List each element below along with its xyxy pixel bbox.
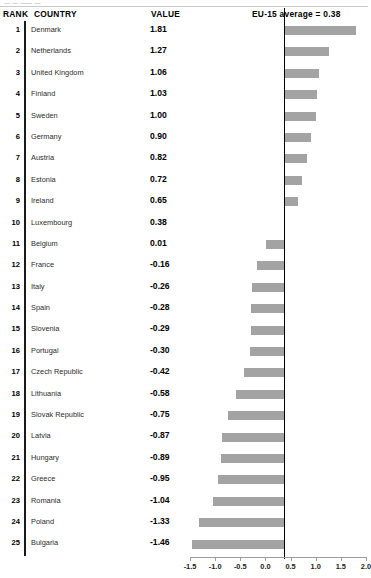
chart-bar <box>199 518 285 527</box>
rank-cell: 19 <box>0 410 20 419</box>
rank-cell: 23 <box>0 496 20 505</box>
value-cell: 1.03 <box>150 88 190 98</box>
rank-column-rule <box>24 299 26 321</box>
rank-cell: 10 <box>0 218 20 227</box>
rank-column-rule <box>24 128 26 150</box>
value-cell: 0.65 <box>150 195 190 205</box>
rank-cell: 17 <box>0 367 20 376</box>
value-cell: -1.04 <box>150 495 190 505</box>
rank-cell: 7 <box>0 153 20 162</box>
value-cell: 0.72 <box>150 174 190 184</box>
chart-bar <box>221 454 285 463</box>
value-cell: 1.00 <box>150 110 190 120</box>
rank-cell: 13 <box>0 282 20 291</box>
country-cell: Germany <box>31 132 61 141</box>
rank-cell: 8 <box>0 175 20 184</box>
rank-column-rule <box>24 363 26 385</box>
value-cell: -0.75 <box>150 409 190 419</box>
column-header-country: COUNTRY <box>34 9 77 21</box>
rank-column-rule <box>24 85 26 107</box>
country-cell: Latvia <box>31 431 51 440</box>
axis-tick-label: 1.0 <box>311 562 321 571</box>
chart-bar <box>266 240 285 249</box>
rank-column-rule <box>24 320 26 342</box>
country-cell: Netherlands <box>31 46 71 55</box>
axis-line <box>190 557 366 558</box>
chart-bar <box>250 347 284 356</box>
country-cell: United Kingdom <box>31 68 84 77</box>
rank-column-rule <box>24 214 26 236</box>
country-cell: Hungary <box>31 453 59 462</box>
value-cell: -0.89 <box>150 452 190 462</box>
country-cell: Portugal <box>31 346 59 355</box>
value-cell: -1.33 <box>150 516 190 526</box>
rank-cell: 16 <box>0 346 20 355</box>
value-cell: 0.38 <box>150 217 190 227</box>
chart-bar <box>257 261 284 270</box>
chart-bar <box>285 112 316 121</box>
rank-cell: 1 <box>0 25 20 34</box>
country-cell: Finland <box>31 89 55 98</box>
rank-cell: 18 <box>0 389 20 398</box>
chart-bar <box>213 497 284 506</box>
chart-bar <box>285 133 311 142</box>
country-cell: Austria <box>31 153 54 162</box>
rank-cell: 15 <box>0 324 20 333</box>
rank-column-rule <box>24 21 26 43</box>
column-header-value: VALUE <box>151 9 180 21</box>
chart-bar <box>285 47 330 56</box>
rank-column-rule <box>24 278 26 300</box>
rank-cell: 9 <box>0 196 20 205</box>
chart-bar <box>251 304 284 313</box>
value-cell: -0.26 <box>150 281 190 291</box>
value-cell: -0.95 <box>150 473 190 483</box>
eu-average-reference-line <box>284 8 286 559</box>
country-cell: Slovenia <box>31 324 59 333</box>
country-cell: Italy <box>31 282 45 291</box>
country-cell: Czech Republic <box>31 367 83 376</box>
rank-cell: 14 <box>0 303 20 312</box>
rank-cell: 25 <box>0 538 20 547</box>
country-cell: Lithuania <box>31 389 61 398</box>
chart-bar <box>244 368 284 377</box>
country-cell: Romania <box>31 496 61 505</box>
country-cell: Poland <box>31 517 54 526</box>
country-cell: Spain <box>31 303 50 312</box>
rank-column-rule <box>24 385 26 407</box>
chart-bar <box>192 540 285 549</box>
rank-cell: 20 <box>0 431 20 440</box>
rank-column-rule <box>24 513 26 535</box>
chart-bar <box>285 176 302 185</box>
rank-cell: 22 <box>0 474 20 483</box>
value-cell: -0.30 <box>150 345 190 355</box>
eu-average-label: EU-15 average = 0.38 <box>252 9 341 21</box>
country-cell: Greece <box>31 474 55 483</box>
rank-cell: 4 <box>0 89 20 98</box>
rank-cell: 11 <box>0 239 20 248</box>
rank-column-rule <box>24 107 26 129</box>
rank-cell: 5 <box>0 111 20 120</box>
rank-column-rule <box>24 449 26 471</box>
value-cell: 1.06 <box>150 67 190 77</box>
rank-column-rule <box>24 470 26 492</box>
country-cell: France <box>31 260 54 269</box>
rank-column-rule <box>24 534 26 556</box>
value-cell: 0.90 <box>150 131 190 141</box>
axis-tick-label: 0.0 <box>260 562 270 571</box>
chart-bar <box>236 390 284 399</box>
value-cell: 0.82 <box>150 152 190 162</box>
rank-cell: 6 <box>0 132 20 141</box>
rank-column-rule <box>24 192 26 214</box>
axis-tick <box>366 557 367 561</box>
axis-tick <box>190 557 191 561</box>
axis-tick-label: -1.0 <box>209 562 222 571</box>
value-cell: -0.87 <box>150 430 190 440</box>
cropped-title-sliver: — — —— — <box>4 0 124 5</box>
rank-cell: 21 <box>0 453 20 462</box>
chart-bar <box>252 283 284 292</box>
rank-column-rule <box>24 406 26 428</box>
rank-column-rule <box>24 342 26 364</box>
chart-bar <box>285 26 357 35</box>
chart-bar <box>251 326 285 335</box>
